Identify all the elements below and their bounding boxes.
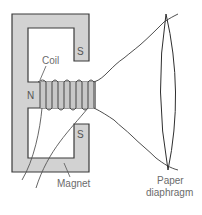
diaphragm-label-line2: diaphragm — [146, 187, 193, 198]
south-pole-top-label: S — [77, 46, 84, 57]
cone-top-edge — [94, 14, 178, 82]
coil-leader-line — [40, 66, 46, 80]
diaphragm-label-line1: Paper — [157, 175, 184, 186]
cone-bottom-edge — [94, 108, 178, 170]
coil-core — [40, 82, 95, 108]
loudspeaker-diagram: Coil N S S Magnet Paper diaphragm — [0, 0, 202, 215]
magnet-label: Magnet — [57, 178, 91, 189]
paper-diaphragm — [160, 14, 175, 170]
south-pole-bottom-label: S — [77, 129, 84, 140]
north-pole-label: N — [27, 90, 34, 101]
coil-label: Coil — [42, 55, 59, 66]
